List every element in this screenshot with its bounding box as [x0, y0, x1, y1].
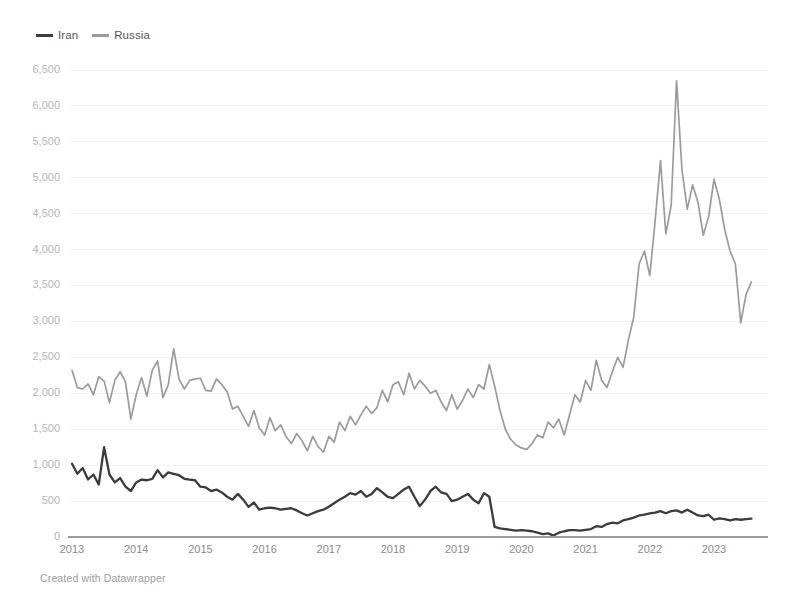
x-axis-tick-label: 2016: [252, 543, 276, 555]
y-axis-tick-label: 2,500: [32, 350, 60, 362]
y-axis-zero-label: 0: [54, 530, 60, 542]
x-axis-tick-label: 2014: [124, 543, 148, 555]
x-axis-tick-label: 2017: [317, 543, 341, 555]
y-axis-tick-label: 5,500: [32, 135, 60, 147]
y-axis-labels-group: 5001,0001,5002,0002,5003,0003,5004,0004,…: [32, 63, 60, 542]
series-lines-group: [72, 81, 751, 536]
y-axis-tick-label: 5,000: [32, 171, 60, 183]
gridlines-group: [70, 70, 768, 501]
plot-area: 5001,0001,5002,0002,5003,0003,5004,0004,…: [0, 0, 803, 613]
chart-container: Iran Russia 5001,0001,5002,0002,5003,000…: [0, 0, 803, 613]
series-line-iran: [72, 447, 751, 535]
x-axis-tick-label: 2015: [188, 543, 212, 555]
y-axis-tick-label: 1,000: [32, 458, 60, 470]
x-axis-labels-group: 2013201420152016201720182019202020212022…: [60, 543, 726, 555]
y-axis-tick-label: 6,000: [32, 99, 60, 111]
y-axis-tick-label: 6,500: [32, 63, 60, 75]
x-axis-tick-label: 2023: [702, 543, 726, 555]
x-axis-tick-label: 2021: [573, 543, 597, 555]
chart-credit: Created with Datawrapper: [40, 572, 166, 584]
y-axis-tick-label: 3,500: [32, 278, 60, 290]
y-axis-tick-label: 3,000: [32, 314, 60, 326]
x-axis-tick-label: 2022: [638, 543, 662, 555]
y-axis-tick-label: 2,000: [32, 386, 60, 398]
x-axis-tick-label: 2020: [509, 543, 533, 555]
y-axis-tick-label: 1,500: [32, 422, 60, 434]
x-axis-tick-label: 2018: [381, 543, 405, 555]
y-axis-tick-label: 4,500: [32, 207, 60, 219]
y-axis-tick-label: 500: [42, 494, 60, 506]
y-axis-tick-label: 4,000: [32, 243, 60, 255]
x-axis-tick-label: 2019: [445, 543, 469, 555]
line-chart-svg: 5001,0001,5002,0002,5003,0003,5004,0004,…: [0, 0, 803, 613]
series-line-russia: [72, 81, 751, 452]
x-axis-tick-label: 2013: [60, 543, 84, 555]
